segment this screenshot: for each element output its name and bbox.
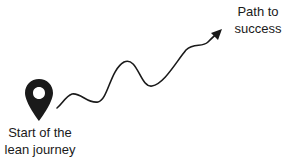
end-label: Path to success [228, 3, 285, 37]
end-label-line2: success [228, 20, 285, 37]
start-label: Start of the lean journey [0, 124, 80, 158]
map-pin-icon [25, 79, 53, 121]
start-label-line2: lean journey [0, 141, 80, 158]
start-label-line1: Start of the [0, 124, 80, 141]
end-label-line1: Path to [228, 3, 285, 20]
